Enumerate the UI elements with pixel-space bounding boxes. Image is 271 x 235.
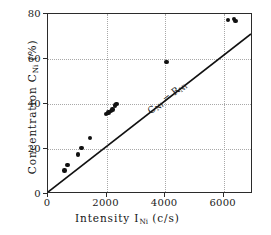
- y-tick-label: 80: [28, 8, 41, 19]
- y-tick-label: 60: [28, 53, 41, 64]
- y-tick-mark: [43, 193, 47, 194]
- x-axis-title-main: Intensity I: [75, 212, 139, 224]
- x-axis-title-unit: (c/s): [152, 212, 180, 224]
- y-tick-label: 20: [28, 143, 41, 154]
- x-tick-label: 0: [44, 197, 51, 208]
- x-axis-title-subscript: Ni: [139, 217, 148, 226]
- plot-area: CNi = RNi: [48, 14, 251, 192]
- x-tick-label: 6000: [209, 197, 236, 208]
- y-axis-title-main: Concentration C: [26, 73, 38, 174]
- data-point: [65, 163, 69, 167]
- data-point: [110, 107, 114, 111]
- x-tick-label: 2000: [92, 197, 119, 208]
- x-tick-label: 4000: [151, 197, 178, 208]
- plot-frame: CNi = RNi: [47, 13, 252, 193]
- x-axis-title: Intensity INi (c/s): [75, 212, 180, 226]
- y-tick-label: 40: [28, 98, 41, 109]
- data-point: [62, 168, 66, 172]
- data-point: [164, 60, 168, 64]
- data-point: [79, 146, 83, 150]
- y-axis-title-subscript: Ni: [31, 65, 40, 74]
- chart-figure: Concentration CNi (%) Intensity INi (c/s…: [0, 0, 271, 235]
- data-point: [114, 102, 118, 106]
- y-tick-label: 0: [34, 188, 41, 199]
- data-point: [233, 19, 237, 23]
